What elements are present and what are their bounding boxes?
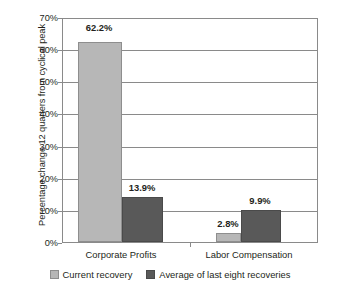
- y-axis-ticks: 70% 60% 50% 40% 30% 20% 10% 0%: [20, 18, 58, 243]
- bar-value-corporate-profits-current: 62.2%: [86, 22, 113, 33]
- legend-swatch-light-icon: [50, 270, 59, 279]
- legend-label-average-last-eight-recoveries: Average of last eight recoveries: [159, 269, 290, 280]
- plot-area: [62, 18, 318, 243]
- y-tick-mark-0: [58, 243, 62, 244]
- x-tick-mark-group-divider: [190, 243, 191, 247]
- bar-value-labor-compensation-average: 9.9%: [249, 195, 270, 206]
- y-tick-label-70: 70%: [24, 13, 58, 23]
- y-tick-label-20: 20%: [24, 174, 58, 184]
- x-axis-label-labor-compensation: Labor Compensation: [205, 249, 292, 260]
- bar-value-corporate-profits-average: 13.9%: [129, 182, 156, 193]
- bar-value-labor-compensation-current: 2.8%: [217, 218, 238, 229]
- y-tick-label-50: 50%: [24, 77, 58, 87]
- bar-chart: Percentage change 12 quarters from cycli…: [0, 0, 340, 287]
- legend-item-current-recovery: Current recovery: [50, 269, 133, 280]
- bar-labor-compensation-current-recovery: [216, 233, 241, 242]
- y-tick-label-0: 0%: [24, 238, 58, 248]
- legend-item-average-last-eight-recoveries: Average of last eight recoveries: [146, 269, 290, 280]
- chart-legend: Current recovery Average of last eight r…: [0, 269, 340, 280]
- y-tick-label-10: 10%: [24, 206, 58, 216]
- y-tick-label-40: 40%: [24, 109, 58, 119]
- y-tick-label-60: 60%: [24, 45, 58, 55]
- bar-corporate-profits-average-last-eight: [122, 197, 163, 242]
- legend-swatch-dark-icon: [146, 270, 155, 279]
- y-tick-label-30: 30%: [24, 142, 58, 152]
- legend-label-current-recovery: Current recovery: [63, 269, 133, 280]
- bar-corporate-profits-current-recovery: [78, 42, 122, 242]
- bar-labor-compensation-average-last-eight: [241, 210, 281, 242]
- x-axis-label-corporate-profits: Corporate Profits: [86, 249, 157, 260]
